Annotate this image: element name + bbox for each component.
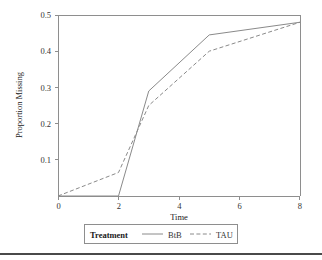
page-divider-rule <box>0 253 322 255</box>
legend-label-tau: TAU <box>216 230 233 240</box>
x-tick-label-0: 0 <box>56 201 60 211</box>
x-tick-label-6: 6 <box>237 201 241 211</box>
legend-label-btb: BtB <box>168 230 182 240</box>
chart-figure: 0.5 0.4 0.3 0.2 0.1 0 2 4 6 8 Time Propo… <box>0 0 322 260</box>
x-axis-ticks <box>59 196 300 200</box>
y-tick-label-0.2: 0.2 <box>40 119 51 129</box>
series-line-btb <box>58 22 300 196</box>
legend-title: Treatment <box>90 230 128 240</box>
y-axis-ticks <box>55 15 59 160</box>
y-tick-label-0.3: 0.3 <box>40 83 51 93</box>
plot-frame <box>58 15 300 196</box>
series-line-tau <box>58 22 300 196</box>
x-tick-label-2: 2 <box>117 201 121 211</box>
y-tick-label-0.5: 0.5 <box>40 10 51 20</box>
x-axis-title: Time <box>170 212 188 222</box>
y-axis-title: Proportion Missing <box>14 71 24 138</box>
chart-legend: Treatment BtB TAU <box>85 225 238 244</box>
x-tick-label-4: 4 <box>177 201 182 211</box>
x-tick-label-8: 8 <box>298 201 302 211</box>
line-chart: 0.5 0.4 0.3 0.2 0.1 0 2 4 6 8 Time Propo… <box>0 0 322 260</box>
y-tick-label-0.1: 0.1 <box>40 155 51 165</box>
y-tick-label-0.4: 0.4 <box>40 46 51 56</box>
